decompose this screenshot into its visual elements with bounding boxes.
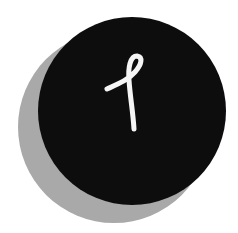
logo [0, 0, 238, 233]
logo-icon [0, 0, 238, 233]
